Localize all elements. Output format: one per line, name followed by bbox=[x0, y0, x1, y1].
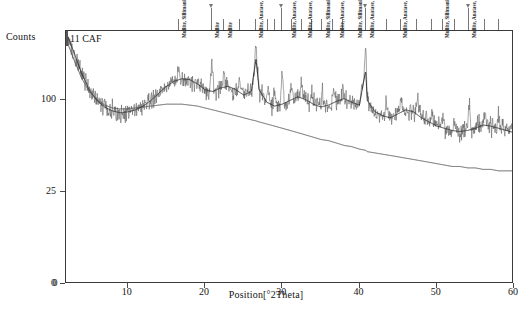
peak-marker-arrow-tick bbox=[211, 8, 212, 30]
peak-marker-tick bbox=[484, 19, 485, 30]
phase-annotation-label: Mullite, Anatase, syn, Sillimanite bbox=[307, 0, 313, 38]
peak-marker-tick bbox=[223, 19, 224, 30]
phase-annotation-label: Mullite, Anatase, syn, Sillimanite bbox=[291, 0, 297, 38]
peak-marker-arrow-tick bbox=[281, 8, 282, 30]
phase-annotation-label: Mullite, Anatase, syn, Sillimanite bbox=[369, 0, 375, 38]
peak-marker-tick bbox=[442, 19, 443, 30]
diffraction-pattern-svg bbox=[66, 31, 513, 283]
smoothed-intensity-curve bbox=[66, 32, 513, 132]
peak-marker-tick bbox=[255, 19, 256, 30]
peak-marker-arrowhead-icon bbox=[466, 4, 470, 8]
sample-id-label: 11 CAF bbox=[68, 33, 104, 44]
x-tick-label: 30 bbox=[268, 286, 294, 297]
x-tick-label: 40 bbox=[346, 286, 372, 297]
phase-annotation-label: Mullite bbox=[227, 22, 233, 38]
y-tick-mark bbox=[60, 99, 65, 100]
peak-marker-tick bbox=[431, 19, 432, 30]
peak-marker-arrowhead-icon bbox=[209, 4, 213, 8]
peak-marker-tick bbox=[332, 19, 333, 30]
peak-marker-tick bbox=[239, 19, 240, 30]
y-tick-mark bbox=[60, 191, 65, 192]
peak-marker-arrowhead-icon bbox=[363, 4, 367, 8]
peak-marker-arrowhead-icon bbox=[279, 4, 283, 8]
background-fit-curve bbox=[66, 39, 513, 171]
y-tick-label: 25 bbox=[22, 185, 56, 196]
phase-annotation-label: Mullite, Anatase, syn, Sillimanite bbox=[471, 0, 477, 38]
phase-annotation-label: Mullite, Anatase, syn, Sillimanite bbox=[258, 0, 264, 38]
phase-annotation-label: Mullite, Sillimanite bbox=[181, 0, 187, 38]
peak-marker-tick bbox=[416, 19, 417, 30]
phase-annotation-label: Mullite, Sillimanite bbox=[357, 0, 363, 38]
peak-marker-tick bbox=[267, 19, 268, 30]
xrd-diffractogram: Counts 11 CAF Position[°2Theta] 02510010… bbox=[0, 0, 532, 317]
origin-label: 0 bbox=[42, 277, 68, 288]
peak-marker-tick bbox=[301, 19, 302, 30]
phase-annotation-label: Mullite, Sillimanite bbox=[325, 0, 331, 38]
x-tick-label: 60 bbox=[500, 286, 526, 297]
phase-annotation-label: Mullite, Anatase, syn, Sillimanite bbox=[339, 0, 345, 38]
phase-annotation-label: Mullite bbox=[214, 22, 220, 38]
x-tick-label: 10 bbox=[114, 286, 140, 297]
peak-marker-arrow-tick bbox=[468, 8, 469, 30]
peak-marker-tick bbox=[454, 19, 455, 30]
peak-marker-tick bbox=[498, 19, 499, 30]
peak-marker-arrow-tick bbox=[365, 8, 366, 30]
peak-marker-tick bbox=[178, 19, 179, 30]
x-axis-title: Position[°2Theta] bbox=[0, 289, 532, 300]
phase-annotation-label: Mullite, Anatase, syn, Sillimanite bbox=[402, 0, 408, 38]
y-tick-label: 100 bbox=[22, 93, 56, 104]
x-tick-label: 50 bbox=[423, 286, 449, 297]
y-axis-title: Counts bbox=[6, 31, 36, 42]
peak-marker-tick bbox=[274, 19, 275, 30]
measured-intensity-curve bbox=[66, 32, 513, 142]
phase-annotation-label: Mullite, Sillimanite bbox=[444, 0, 450, 38]
peak-marker-tick bbox=[321, 19, 322, 30]
x-tick-label: 20 bbox=[191, 286, 217, 297]
peak-marker-tick bbox=[386, 19, 387, 30]
plot-area[interactable] bbox=[65, 30, 513, 283]
